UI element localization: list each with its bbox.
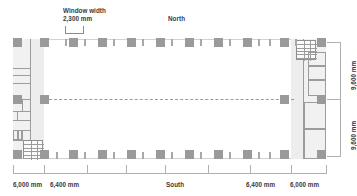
column-n-1 xyxy=(13,38,22,47)
column-n-4 xyxy=(98,38,107,47)
column-n-7 xyxy=(185,38,194,47)
mullion-n-8 xyxy=(258,39,260,46)
window-width-value: 2,300 mm xyxy=(63,15,92,23)
right-room-3 xyxy=(308,80,326,96)
column-n-5 xyxy=(127,38,136,47)
south-label: South xyxy=(166,181,184,189)
mullion-n-2 xyxy=(84,39,86,46)
right-room-2 xyxy=(308,66,326,80)
column-s-7 xyxy=(185,150,194,159)
mullion-n-9 xyxy=(269,39,271,46)
column-s-11 xyxy=(317,150,326,159)
left-room-vert-2 xyxy=(17,111,18,120)
mullion-s-8 xyxy=(258,152,260,159)
column-s-8 xyxy=(214,150,223,159)
right-room-1 xyxy=(308,52,326,66)
left-cell-2 xyxy=(18,130,23,140)
dim-tick-4 xyxy=(126,165,127,174)
dim-tick-2 xyxy=(44,165,45,174)
column-n-6 xyxy=(156,38,165,47)
centre-axis-dashed-line xyxy=(44,99,294,100)
column-s-6 xyxy=(156,150,165,159)
left-room-divider-3 xyxy=(13,83,31,84)
mullion-s-4 xyxy=(142,152,144,159)
vertical-dimension-line-north xyxy=(340,42,341,99)
horizontal-dimension-label-4: 6,000 mm xyxy=(290,181,319,189)
mullion-n-5 xyxy=(171,39,173,46)
left-room-vert-1 xyxy=(22,99,23,111)
column-n-11 xyxy=(317,38,326,47)
vertical-dimension-label-south: 9,600 mm xyxy=(350,121,357,150)
column-s-10 xyxy=(280,150,289,159)
dim-tick-8 xyxy=(291,165,292,174)
mullion-s-6 xyxy=(200,152,202,159)
dim-tick-6 xyxy=(208,165,209,174)
mullion-s-1 xyxy=(56,152,58,159)
dim-tick-7 xyxy=(250,165,251,174)
horizontal-dimension-label-1: 6,000 mm xyxy=(13,181,42,189)
left-room-divider-2 xyxy=(13,75,31,76)
column-s-9 xyxy=(243,150,252,159)
column-n-9 xyxy=(243,38,252,47)
column-n-2 xyxy=(40,38,49,47)
column-n-10 xyxy=(280,38,289,47)
mullion-n-1 xyxy=(65,39,67,46)
dim-tick-3 xyxy=(87,165,88,174)
right-room-4 xyxy=(304,102,326,129)
vertical-dim-leader-bottom xyxy=(327,156,341,157)
horizontal-dimension-line xyxy=(13,173,326,174)
left-room-divider-5 xyxy=(13,111,31,112)
column-mid-east-inner xyxy=(280,95,289,104)
column-s-1 xyxy=(13,150,22,159)
window-width-bracket xyxy=(65,26,84,34)
left-room-divider-6 xyxy=(13,120,31,121)
mullion-s-9 xyxy=(269,152,271,159)
column-s-2 xyxy=(40,150,49,159)
dim-tick-9 xyxy=(326,165,327,174)
column-s-3 xyxy=(69,150,78,159)
mullion-n-4 xyxy=(142,39,144,46)
column-mid-west-inner xyxy=(40,95,49,104)
column-mid-east-outer xyxy=(317,95,326,104)
vertical-dimension-line-south xyxy=(340,99,341,156)
column-mid-west-outer xyxy=(13,95,22,104)
dim-tick-5 xyxy=(165,165,166,174)
horizontal-dimension-label-2: 6,400 mm xyxy=(50,181,79,189)
column-n-3 xyxy=(69,38,78,47)
horizontal-dimension-label-3: 6,400 mm xyxy=(246,181,275,189)
vertical-dim-leader-mid xyxy=(327,99,341,100)
mullion-n-10 xyxy=(295,39,297,46)
mullion-s-3 xyxy=(113,152,115,159)
mullion-s-2 xyxy=(84,152,86,159)
column-s-5 xyxy=(127,150,136,159)
floor-plan-figure: Window width 2,300 mm North xyxy=(0,0,357,196)
mullion-n-6 xyxy=(200,39,202,46)
mullion-n-7 xyxy=(229,39,231,46)
column-n-8 xyxy=(214,38,223,47)
vertical-dim-leader-top xyxy=(327,42,341,43)
left-room-divider-8 xyxy=(13,140,23,141)
dim-tick-1 xyxy=(13,165,14,174)
north-label: North xyxy=(168,15,185,23)
vertical-dimension-label-north: 9,600 mm xyxy=(350,61,357,90)
column-s-4 xyxy=(98,150,107,159)
mullion-n-3 xyxy=(113,39,115,46)
mullion-s-7 xyxy=(229,152,231,159)
window-width-label: Window width xyxy=(63,7,106,15)
mullion-s-5 xyxy=(171,152,173,159)
left-room-divider-1 xyxy=(13,68,31,69)
